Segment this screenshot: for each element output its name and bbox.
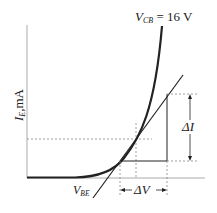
vbe-label: VBE: [73, 183, 90, 198]
arrow-right-icon: [162, 188, 167, 192]
arrow-up-icon: [188, 94, 192, 99]
delta-v-label: ΔV: [133, 182, 152, 197]
y-axis-label: IE,mA: [11, 88, 27, 122]
characteristic-curve: [27, 26, 162, 178]
arrow-left-icon: [120, 188, 125, 192]
tangent-line: [93, 75, 183, 198]
svg-text:IE,mA: IE,mA: [11, 88, 27, 122]
ie-vbe-characteristic-diagram: VCB = 16 V IE,mA VBE ΔI ΔV: [0, 0, 217, 213]
vcb-label: VCB = 16 V: [135, 9, 193, 25]
delta-i-label: ΔI: [181, 119, 195, 134]
arrow-down-icon: [188, 156, 192, 161]
